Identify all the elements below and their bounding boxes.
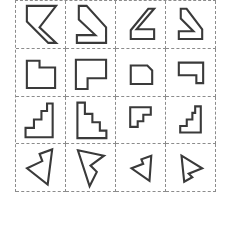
- shape-svg-notched-rectangle-top-right: [16, 49, 65, 96]
- grid-cell-arrowhead-small-notched-left[interactable]: [116, 144, 166, 192]
- shape-svg-flag-chevron-left: [16, 1, 65, 48]
- shape-svg-flag-chevron-small-left: [116, 1, 165, 48]
- shape-svg-arrowhead-notched-right: [66, 144, 115, 191]
- grid-cell-staircase-descending-right[interactable]: [66, 97, 116, 145]
- shape-puzzle-grid: [15, 0, 216, 192]
- shape-flag-chevron-small-left: [131, 9, 154, 39]
- shape-svg-notched-rectangle-small-bottom-right: [166, 49, 215, 96]
- grid-cell-staircase-small-ascending-right[interactable]: [166, 97, 216, 145]
- shape-svg-staircase-small-descending-right: [116, 97, 165, 144]
- grid-cell-notched-rectangle-top-right[interactable]: [16, 49, 66, 97]
- grid-cell-notched-rectangle-bottom-left[interactable]: [66, 49, 116, 97]
- grid-cell-arrowhead-small-notched-right[interactable]: [166, 144, 216, 192]
- shape-svg-staircase-descending-right: [66, 97, 115, 144]
- shape-notched-rectangle-small-bottom-right: [179, 62, 203, 82]
- shape-svg-flag-chevron-right: [66, 1, 115, 48]
- grid-cell-staircase-small-descending-right[interactable]: [116, 97, 166, 145]
- shape-flag-chevron-small-right: [179, 9, 202, 39]
- grid-cell-flag-chevron-right[interactable]: [66, 1, 116, 49]
- shape-svg-staircase-small-ascending-right: [166, 97, 215, 144]
- shape-staircase-descending-right: [77, 102, 106, 138]
- shape-svg-arrowhead-small-notched-right: [166, 144, 215, 191]
- grid-cell-notched-rectangle-small-bottom-right[interactable]: [166, 49, 216, 97]
- grid-cell-notched-rectangle-small-top-right[interactable]: [116, 49, 166, 97]
- grid-cell-arrowhead-notched-left[interactable]: [16, 144, 66, 192]
- shape-notched-rectangle-top-right: [27, 60, 55, 87]
- shape-svg-arrowhead-small-notched-left: [116, 144, 165, 191]
- shape-staircase-ascending-right: [26, 103, 53, 137]
- shape-staircase-small-ascending-right: [180, 106, 201, 132]
- shape-arrowhead-small-notched-right: [182, 156, 203, 182]
- grid-cell-flag-chevron-small-left[interactable]: [116, 1, 166, 49]
- shape-staircase-small-descending-right: [130, 107, 151, 127]
- shape-flag-chevron-left: [27, 6, 56, 43]
- shape-flag-chevron-right: [77, 6, 106, 43]
- shape-svg-arrowhead-notched-left: [16, 144, 65, 191]
- shape-arrowhead-notched-right: [78, 151, 104, 187]
- grid-cell-flag-chevron-small-right[interactable]: [166, 1, 216, 49]
- grid-cell-staircase-ascending-right[interactable]: [16, 97, 66, 145]
- shape-svg-flag-chevron-small-right: [166, 1, 215, 48]
- shape-svg-staircase-ascending-right: [16, 97, 65, 144]
- shape-notched-rectangle-small-top-right: [131, 65, 152, 84]
- shape-arrowhead-small-notched-left: [132, 156, 152, 181]
- shape-notched-rectangle-bottom-left: [76, 59, 106, 88]
- shape-svg-notched-rectangle-small-top-right: [116, 49, 165, 96]
- shape-arrowhead-notched-left: [27, 150, 52, 185]
- grid-cell-flag-chevron-left[interactable]: [16, 1, 66, 49]
- grid-cell-arrowhead-notched-right[interactable]: [66, 144, 116, 192]
- shape-svg-notched-rectangle-bottom-left: [66, 49, 115, 96]
